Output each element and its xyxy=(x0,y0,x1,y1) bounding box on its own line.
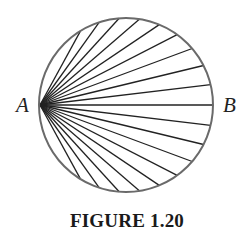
figure-caption: FIGURE 1.20 xyxy=(0,211,248,230)
point-label-a: A xyxy=(16,95,29,116)
point-label-b: B xyxy=(223,95,236,116)
circle-chords-diagram xyxy=(0,0,248,205)
